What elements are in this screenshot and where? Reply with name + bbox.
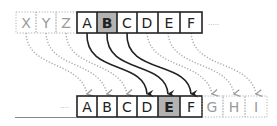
bottom-row: .... A B C D E F G H I [15, 96, 267, 118]
arrow-z-to-c [66, 33, 127, 94]
top-ghost-cell-y: Y [41, 15, 51, 31]
top-row: X Y Z A B C D E F ..... [16, 12, 219, 33]
arrow-c-to-f [127, 33, 191, 94]
top-cell-e: E [165, 15, 174, 31]
top-cell-d: D [142, 15, 153, 31]
arrow-a-to-d [87, 33, 147, 94]
bottom-cell-e-highlighted: E [164, 99, 174, 115]
solid-arrows [87, 33, 191, 94]
arrow-y-to-b [46, 33, 107, 94]
top-ghost-cell-x: X [21, 15, 31, 31]
top-cell-c: C [122, 15, 132, 31]
top-ghost-cell-z: Z [61, 15, 71, 31]
top-cell-a: A [82, 15, 92, 31]
bottom-cell-d: D [142, 99, 153, 115]
arrow-f-to-i [191, 33, 256, 94]
bottom-cell-a: A [82, 99, 92, 115]
bottom-cell-f: F [187, 99, 195, 115]
top-cell-f: F [187, 15, 195, 31]
caesar-shift-diagram: X Y Z A B C D E F ..... .... [0, 0, 277, 126]
arrow-e-to-h [168, 33, 234, 94]
bottom-ghost-cell-g: G [207, 99, 218, 115]
bottom-ghost-cell-i: I [254, 99, 258, 115]
bottom-ghost-cell-h: H [229, 99, 240, 115]
bottom-ellipsis: .... [60, 102, 69, 110]
bottom-cell-b: B [102, 99, 112, 115]
arrow-b-to-e [107, 33, 168, 94]
arrow-d-to-g [147, 33, 212, 94]
top-cell-b-highlighted: B [102, 15, 113, 31]
bottom-cell-c: C [122, 99, 132, 115]
top-ellipsis: ..... [208, 19, 219, 27]
dotted-arrows [26, 33, 256, 94]
arrow-x-to-a [26, 33, 87, 94]
